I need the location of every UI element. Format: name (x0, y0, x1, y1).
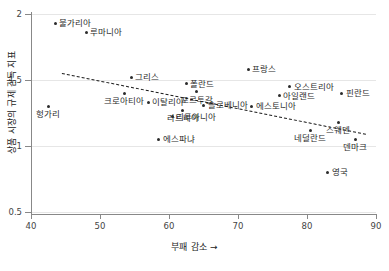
x-tick-label: 50 (85, 222, 115, 231)
y-tick-mark (25, 212, 31, 213)
data-point-label: 그리스 (135, 73, 159, 82)
data-point-label: 리투아니아 (176, 113, 216, 122)
data-point-label: 영국 (332, 168, 348, 177)
data-point-label: 에스토니아 (256, 102, 296, 111)
x-tick-mark (31, 214, 32, 219)
data-point (340, 92, 343, 95)
data-point (195, 90, 198, 93)
gridline (31, 212, 376, 213)
y-tick-mark (25, 80, 31, 81)
x-tick-mark (169, 214, 170, 219)
x-tick-label: 70 (223, 222, 253, 231)
y-axis-title: 상품 시장의 규제 감독 지표 (5, 18, 18, 188)
data-point (202, 104, 205, 107)
data-point (147, 101, 150, 104)
data-point-label: 루마니아 (90, 28, 122, 37)
data-point-label: 크로아티아 (104, 97, 144, 106)
x-axis-title: 부패 감소 → (0, 240, 389, 253)
x-tick-mark (238, 214, 239, 219)
data-point-label: 헝가리 (36, 110, 60, 119)
data-point-label: 폴란드 (190, 80, 214, 89)
data-point (85, 31, 88, 34)
data-point (278, 94, 281, 97)
data-point-label: 이탈리아 (152, 98, 184, 107)
data-point (337, 121, 340, 124)
data-point (309, 129, 312, 132)
data-point (130, 76, 133, 79)
x-tick-label: 80 (292, 222, 322, 231)
data-point-label: 에스파냐 (163, 135, 195, 144)
x-tick-label: 90 (361, 222, 389, 231)
data-point (123, 92, 126, 95)
y-tick-mark (25, 146, 31, 147)
data-point (326, 171, 329, 174)
y-tick-label: 0.5 (0, 208, 22, 217)
data-point (47, 105, 50, 108)
plot-area: 불가리아루마니아그리스크로아티아이탈리아헝가리라트비아리투아니아에스파냐폴란드포… (31, 14, 376, 212)
data-point-label: 오스트리아 (294, 82, 334, 91)
data-point-label: 핀란드 (346, 89, 370, 98)
scatter-chart: 불가리아루마니아그리스크로아티아이탈리아헝가리라트비아리투아니아에스파냐폴란드포… (0, 0, 389, 271)
data-point (185, 82, 188, 85)
x-axis-line (31, 214, 376, 215)
gridline (31, 14, 376, 15)
data-point (247, 68, 250, 71)
x-tick-mark (307, 214, 308, 219)
x-tick-label: 60 (154, 222, 184, 231)
gridline (31, 146, 376, 147)
data-point-label: 프랑스 (252, 65, 276, 74)
data-point (354, 138, 357, 141)
x-tick-mark (100, 214, 101, 219)
y-tick-mark (25, 14, 31, 15)
data-point (250, 105, 253, 108)
x-tick-mark (376, 214, 377, 219)
data-point (157, 138, 160, 141)
data-point (54, 22, 57, 25)
data-point-label: 아일랜드 (283, 92, 315, 101)
data-point-label: 불가리아 (59, 19, 91, 28)
data-point-label: 덴마크 (343, 143, 367, 152)
data-point (288, 85, 291, 88)
data-point-label: 네덜란드 (294, 134, 326, 143)
x-tick-label: 40 (16, 222, 46, 231)
y-axis-line (31, 12, 32, 214)
